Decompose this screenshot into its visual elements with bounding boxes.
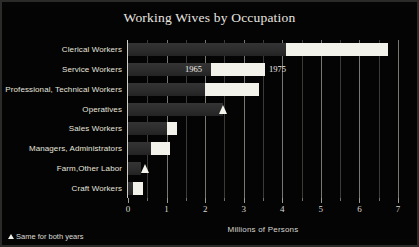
category-label: Professional, Technical Workers: [5, 83, 122, 96]
chart-row: Sales Workers: [128, 122, 398, 135]
bar-segment-1975: [211, 63, 265, 76]
footnote-label: Same for both years: [16, 232, 84, 241]
chart-row: Craft Workers: [128, 182, 398, 195]
axis-tick-minor: [340, 198, 341, 201]
chart-row: Farm,Other Labor: [128, 162, 398, 175]
axis-tick-minor: [379, 198, 380, 201]
chart-row: Professional, Technical Workers: [128, 83, 398, 96]
axis-tick: [167, 198, 168, 203]
bar-segment-1965: [128, 83, 205, 96]
bar-segment-1965: [128, 103, 223, 116]
series-label-1975: 1975: [269, 63, 286, 76]
bar-segment-1975: [286, 43, 388, 56]
axis-tick-minor: [302, 198, 303, 201]
gridline: [398, 40, 399, 198]
bar-segment-1965: [128, 43, 286, 56]
chart-row: Clerical Workers: [128, 43, 398, 56]
axis-tick-minor: [263, 198, 264, 201]
axis-tick: [321, 198, 322, 203]
bar-segment-1975: [151, 142, 170, 155]
bar-segment-1975: [167, 122, 177, 135]
page-title: Working Wives by Occupation: [0, 10, 419, 26]
category-label: Managers, Administrators: [29, 142, 122, 155]
bar-segment-1975: [205, 83, 259, 96]
x-tick-label: 5: [309, 204, 333, 214]
category-label: Sales Workers: [69, 122, 122, 135]
x-tick-label: 0: [116, 204, 140, 214]
x-tick-label: 6: [347, 204, 371, 214]
axis-tick: [128, 198, 129, 203]
plot-area: 01234567Clerical WorkersService Workers1…: [128, 40, 398, 198]
axis-tick-minor: [147, 198, 148, 201]
series-label-1965: 1965: [185, 63, 202, 76]
axis-tick-minor: [224, 198, 225, 201]
axis-tick: [359, 198, 360, 203]
chart-row: Managers, Administrators: [128, 142, 398, 155]
x-tick-label: 2: [193, 204, 217, 214]
chart-row: Service Workers19651975: [128, 63, 398, 76]
bar-segment-1965: [128, 162, 141, 175]
x-axis-label: Millions of Persons: [128, 225, 398, 234]
chart-container: Working Wives by Occupation 01234567Cler…: [0, 0, 419, 247]
x-tick-label: 1: [155, 204, 179, 214]
category-label: Operatives: [82, 103, 122, 116]
category-label: Craft Workers: [72, 182, 123, 195]
x-tick-label: 3: [232, 204, 256, 214]
axis-tick-minor: [186, 198, 187, 201]
x-tick-label: 7: [386, 204, 410, 214]
axis-tick: [205, 198, 206, 203]
axis-tick: [398, 198, 399, 203]
bar-segment-1965: [128, 142, 151, 155]
triangle-up-icon: [141, 164, 149, 173]
category-label: Service Workers: [62, 63, 122, 76]
x-tick-label: 4: [270, 204, 294, 214]
footnote: Same for both years: [8, 232, 84, 241]
axis-tick: [244, 198, 245, 203]
triangle-up-icon: [8, 234, 14, 239]
bar-segment-1975: [133, 182, 144, 195]
category-label: Clerical Workers: [62, 43, 122, 56]
bar-segment-1965: [128, 122, 167, 135]
axis-tick: [282, 198, 283, 203]
triangle-up-icon: [219, 105, 227, 114]
chart-row: Operatives: [128, 103, 398, 116]
category-label: Farm,Other Labor: [57, 162, 122, 175]
